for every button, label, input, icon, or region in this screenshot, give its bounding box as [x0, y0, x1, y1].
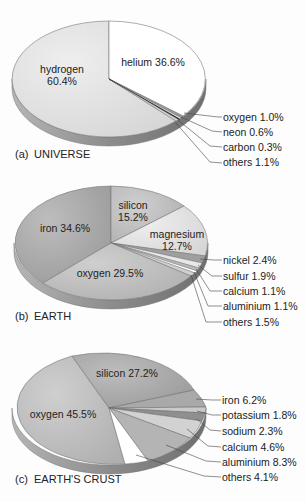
callout-iron: iron 6.2% [222, 394, 266, 406]
callout-carbon: carbon 0.3% [223, 141, 282, 153]
pie-charts-figure: hydrogen 60.4% helium 36.6% oxygen 1.0% … [0, 0, 306, 502]
label-magnesium: magnesium [150, 228, 205, 240]
label-iron: iron 34.6% [40, 222, 90, 234]
caption-a-text: UNIVERSE [34, 148, 90, 160]
label-magnesium-value: 12.7% [162, 240, 192, 252]
label-oxygen: oxygen 45.5% [30, 408, 97, 420]
figure: hydrogen 60.4% helium 36.6% oxygen 1.0% … [0, 0, 306, 502]
callout-aluminium: aluminium 8.3% [222, 456, 297, 468]
callout-others: others 1.1% [223, 156, 279, 168]
label-hydrogen: hydrogen [40, 63, 84, 75]
label-silicon: silicon [118, 199, 147, 211]
chart-earths-crust: silicon 27.2% oxygen 45.5% iron 6.2% pot… [12, 353, 297, 485]
callout-others: others 1.5% [223, 316, 279, 328]
callout-nickel: nickel 2.4% [223, 254, 277, 266]
label-helium: helium 36.6% [121, 56, 185, 68]
caption-b-letter: (b) [15, 310, 28, 322]
chart-universe: hydrogen 60.4% helium 36.6% oxygen 1.0% … [12, 21, 284, 168]
callout-sodium: sodium 2.3% [222, 425, 283, 437]
callout-neon: neon 0.6% [223, 126, 273, 138]
callout-others: others 4.1% [222, 471, 278, 483]
callout-sulfur: sulfur 1.9% [223, 270, 276, 282]
callout-potassium: potassium 1.8% [222, 409, 297, 421]
caption-a-letter: (a) [15, 148, 28, 160]
label-silicon-value: 15.2% [118, 211, 148, 223]
caption-c-letter: (c) [15, 473, 28, 485]
callout-oxygen: oxygen 1.0% [223, 111, 284, 123]
label-hydrogen-value: 60.4% [47, 75, 77, 87]
label-oxygen: oxygen 29.5% [77, 267, 144, 279]
callout-calcium: calcium 4.6% [222, 441, 284, 453]
label-silicon: silicon 27.2% [96, 367, 158, 379]
chart-earth: iron 34.6% silicon 15.2% magnesium 12.7%… [14, 186, 298, 328]
caption-b-text: EARTH [34, 310, 71, 322]
callout-calcium: calcium 1.1% [223, 285, 285, 297]
callout-aluminium: aluminium 1.1% [223, 300, 298, 312]
caption-c-text: EARTH'S CRUST [34, 473, 122, 485]
